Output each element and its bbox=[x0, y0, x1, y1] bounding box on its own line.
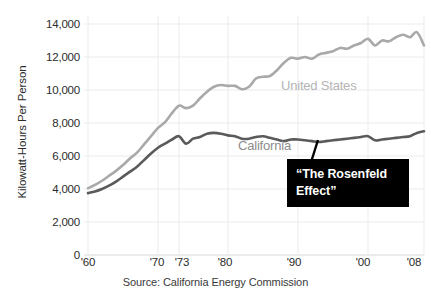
x-tick-label: '00 bbox=[356, 256, 370, 268]
callout-line-1: “The Rosenfeld bbox=[296, 166, 400, 183]
vertical-gridlines bbox=[88, 16, 424, 255]
x-tick-label: '73 bbox=[175, 256, 189, 268]
source-note: Source: California Energy Commission bbox=[0, 276, 431, 288]
rosenfeld-effect-callout: “The Rosenfeld Effect” bbox=[287, 159, 409, 207]
x-tick-label: '70 bbox=[150, 256, 164, 268]
x-tick-label: '60 bbox=[81, 256, 95, 268]
plot-area bbox=[0, 0, 431, 293]
x-tick-label: '90 bbox=[287, 256, 301, 268]
x-tick-label: '80 bbox=[218, 256, 232, 268]
california-series-label: California bbox=[238, 138, 291, 153]
callout-line-2: Effect” bbox=[296, 183, 400, 200]
chart-container: Kilowatt-Hours Per Person 14,000 12,000 … bbox=[0, 0, 431, 293]
x-tick-label: '08 bbox=[407, 256, 421, 268]
united-states-series-label: United States bbox=[281, 78, 356, 93]
